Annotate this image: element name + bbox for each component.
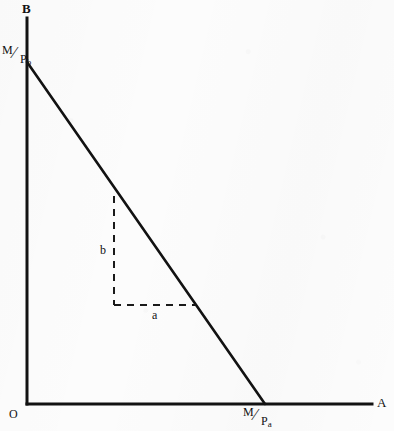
horizontal-intercept-denominator: Pa: [261, 415, 272, 427]
budget-constraint-plot: [0, 0, 394, 431]
vertical-intercept-numerator: M: [2, 44, 13, 56]
origin-label: O: [9, 408, 18, 420]
horizontal-intercept-numerator: M: [243, 406, 254, 418]
slope-triangle-horizontal-leg-label: a: [152, 309, 157, 321]
slope-triangle-vertical-leg-label: b: [100, 244, 106, 256]
horizontal-intercept-denominator-base: P: [261, 414, 268, 428]
vertical-intercept-denominator-base: P: [20, 52, 27, 66]
horizontal-axis-label: A: [377, 396, 386, 409]
vertical-intercept-denominator-subscript: b: [27, 57, 32, 67]
vertical-intercept-slash: ⁄: [13, 45, 16, 61]
horizontal-intercept-denominator-subscript: a: [268, 419, 272, 429]
budget-constraint-figure: B A O M ⁄ Pb M ⁄ Pa b a: [0, 0, 394, 431]
horizontal-intercept-slash: ⁄: [254, 407, 257, 423]
vertical-axis-label: B: [22, 2, 31, 15]
budget-line: [27, 62, 265, 404]
vertical-intercept-denominator: Pb: [20, 53, 31, 65]
